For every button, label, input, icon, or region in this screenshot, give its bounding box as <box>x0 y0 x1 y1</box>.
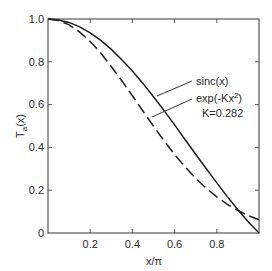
y-tick-labels: 0 0.2 0.4 0.6 0.8 1.0 <box>29 13 44 239</box>
sinc-leader-line <box>157 81 192 96</box>
y-tick-label: 0.6 <box>29 98 44 110</box>
chart-canvas: 0 0.2 0.4 0.6 0.8 1.0 0.2 0.4 0.6 0.8 x/… <box>0 0 272 271</box>
y-tick-label: 0.2 <box>29 184 44 196</box>
sinc-label: sinc(x) <box>196 75 228 87</box>
gaussian-curve <box>48 19 259 220</box>
y-ticks-right <box>255 62 259 190</box>
gaussian-label-suffix: ) <box>238 92 242 104</box>
y-tick-label: 1.0 <box>29 13 44 25</box>
gaussian-label: exp(-Kx2) <box>196 91 242 104</box>
x-tick-label: 0.8 <box>209 238 224 250</box>
y-axis-title: Ta(x) <box>14 114 29 138</box>
y-tick-label: 0 <box>38 227 44 239</box>
y-tick-label: 0.8 <box>29 56 44 68</box>
k-value-label: K=0.282 <box>202 107 243 119</box>
y-tick-label: 0.4 <box>29 141 44 153</box>
x-tick-label: 0.4 <box>125 238 140 250</box>
gaussian-label-prefix: exp(-Kx <box>196 92 234 104</box>
x-tick-labels: 0.2 0.4 0.6 0.8 <box>83 238 225 250</box>
x-axis-title: x/π <box>146 255 163 267</box>
x-ticks-bottom <box>90 229 217 233</box>
x-tick-label: 0.2 <box>83 238 98 250</box>
svg-text:Ta(x): Ta(x) <box>14 114 29 138</box>
x-tick-label: 0.6 <box>167 238 182 250</box>
y-axis-title-arg: (x) <box>14 114 26 127</box>
